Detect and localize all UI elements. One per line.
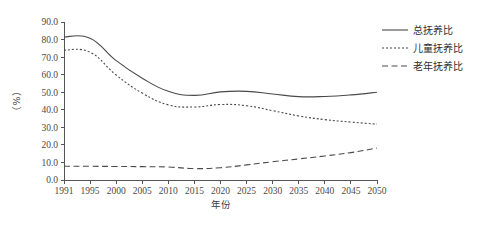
x-tick-label: 2050 (368, 186, 387, 196)
x-tick-label: 2030 (263, 186, 282, 196)
x-tick-label: 2020 (211, 186, 230, 196)
y-tick-label: 50.0 (41, 88, 58, 98)
chart-figure: 0.010.020.030.040.050.060.070.080.090.01… (0, 0, 493, 226)
x-tick-label: 1991 (55, 186, 74, 196)
y-tick-label: 60.0 (41, 70, 58, 80)
x-tick-label: 2005 (133, 186, 152, 196)
x-tick-label: 2035 (289, 186, 308, 196)
y-tick-label: 30.0 (41, 123, 58, 133)
y-tick-label: 10.0 (41, 158, 58, 168)
chart-axes (64, 22, 377, 180)
legend-label-1: 儿童抚养比 (413, 42, 463, 54)
y-tick-label: 40.0 (41, 105, 58, 115)
x-tick-label: 2000 (107, 186, 126, 196)
y-tick-label: 0.0 (46, 175, 58, 185)
x-tick-label: 2015 (185, 186, 204, 196)
y-tick-label: 80.0 (41, 35, 58, 45)
x-tick-label: 2045 (341, 186, 360, 196)
series-line-2 (64, 148, 377, 169)
x-tick-label: 2010 (159, 186, 178, 196)
x-axis-title: 年份 (211, 199, 231, 210)
y-tick-label: 90.0 (41, 17, 58, 27)
x-tick-label: 1995 (81, 186, 100, 196)
y-tick-label: 70.0 (41, 53, 58, 63)
y-axis-title: （%） (11, 86, 22, 115)
y-tick-label: 20.0 (41, 140, 58, 150)
legend-label-0: 总抚养比 (413, 24, 453, 36)
x-tick-label: 2025 (237, 186, 256, 196)
series-line-1 (64, 49, 377, 124)
series-line-0 (64, 36, 377, 97)
chart-canvas: 0.010.020.030.040.050.060.070.080.090.01… (0, 0, 493, 226)
legend-label-2: 老年抚养比 (413, 60, 463, 72)
x-tick-label: 2040 (315, 186, 334, 196)
